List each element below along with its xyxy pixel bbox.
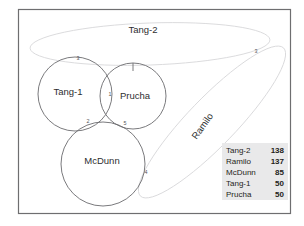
set-label-prucha: Prucha	[120, 90, 151, 101]
legend-row-name: McDunn	[226, 168, 256, 177]
region-label-tang1-mcdunn: 2	[87, 118, 90, 124]
region-label-tang1-prucha: 1	[109, 91, 112, 97]
euler-diagram-figure: Tang-2 Ramilo Tang-1 Prucha McDunn 3 1 2…	[0, 0, 304, 226]
legend-row-value: 85	[275, 168, 284, 177]
legend-row-value: 138	[271, 146, 285, 155]
legend-row-name: Prucha	[226, 190, 252, 199]
legend-row-name: Tang-2	[226, 146, 251, 155]
legend-row-value: 137	[271, 157, 285, 166]
region-label-tang1-top: 3	[77, 55, 80, 61]
set-label-mcdunn: McDunn	[84, 155, 119, 166]
set-label-tang2-group: Tang-2	[128, 24, 157, 35]
legend-row-value: 50	[275, 190, 284, 199]
legend-row-value: 50	[275, 179, 284, 188]
legend-row-name: Tang-1	[226, 179, 251, 188]
set-label-tang2: Tang-2	[128, 24, 157, 35]
set-label-tang1: Tang-1	[53, 86, 82, 97]
legend: Tang-2 138 Ramilo 137 McDunn 85 Tang-1 5…	[222, 143, 288, 200]
region-label-ramilo-tang2: 3	[255, 48, 258, 54]
region-label-mcdunn-ramilo: 4	[145, 169, 148, 175]
region-label-prucha-mcdunn: 5	[124, 120, 127, 126]
legend-row-name: Ramilo	[226, 157, 251, 166]
